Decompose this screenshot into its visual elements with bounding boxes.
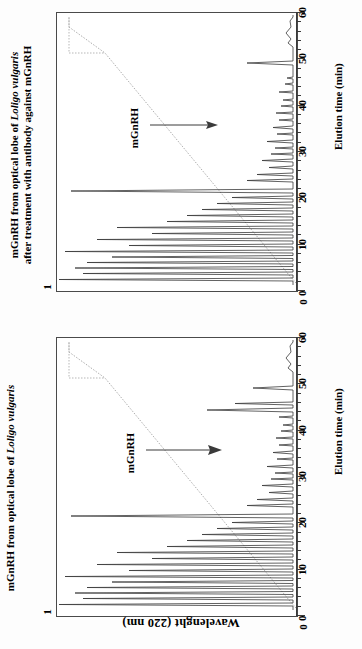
xtick-46 [296, 402, 301, 403]
panel-bottom-trace-svg [57, 338, 297, 616]
chromatogram-bottom [59, 340, 293, 610]
chromatogram-top [59, 15, 293, 285]
xtick-42 [296, 95, 301, 96]
xtick-26 [296, 495, 301, 496]
xtick-22 [296, 188, 301, 189]
xtick-42 [296, 420, 301, 421]
xtick-label-50: 50 [296, 378, 308, 389]
gradient-plateau-bottom [69, 342, 105, 378]
y-axis-label: Wavelenght (220 nm) [0, 600, 362, 630]
xtick-6 [296, 262, 301, 263]
xtick-26 [296, 170, 301, 171]
panel-top-title-line1: mGnRH from optical lobe of [8, 121, 20, 259]
xtick-56 [296, 31, 301, 32]
xtick-22 [296, 513, 301, 514]
xtick-36 [296, 123, 301, 124]
panel-bottom-title-line1: mGnRH from optical lobe of [4, 454, 16, 592]
xtick-34 [296, 457, 301, 458]
x-axis-label: Elution time (min) [332, 388, 344, 475]
xtick-label-20: 20 [296, 517, 308, 528]
xtick-46 [296, 77, 301, 78]
panel-top-ymax-label: 1 [41, 284, 53, 290]
solvent-gradient-line-bottom [69, 342, 296, 608]
xtick-58 [296, 21, 301, 22]
xtick-28 [296, 160, 301, 161]
xtick-label-60: 60 [296, 7, 308, 18]
xtick-8 [296, 578, 301, 579]
panel-bottom-title: mGnRH from optical lobe of Loligo vulgar… [4, 338, 44, 638]
xtick-14 [296, 550, 301, 551]
xtick-48 [296, 393, 301, 394]
xtick-52 [296, 374, 301, 375]
panel-top-plot-area [56, 12, 298, 292]
xtick-2 [296, 281, 301, 282]
xtick-32 [296, 142, 301, 143]
xtick-28 [296, 485, 301, 486]
x-axis-label: Elution time (min) [332, 63, 344, 150]
xtick-label-60: 60 [296, 332, 308, 343]
xtick-label-50: 50 [296, 53, 308, 64]
xtick-8 [296, 253, 301, 254]
panel-bottom-plot-area [56, 337, 298, 617]
xtick-6 [296, 587, 301, 588]
xtick-32 [296, 467, 301, 468]
panel-top: mGnRH from optical lobe of Loligo vulgar… [0, 0, 362, 324]
xtick-16 [296, 216, 301, 217]
xtick-54 [296, 40, 301, 41]
panel-top-annotation-label: mGnRH [128, 108, 140, 148]
xtick-16 [296, 541, 301, 542]
xtick-58 [296, 346, 301, 347]
xtick-18 [296, 207, 301, 208]
xtick-label-10: 10 [296, 564, 308, 575]
panel-top-title: mGnRH from optical lobe of Loligo vulgar… [8, 5, 48, 305]
xtick-24 [296, 179, 301, 180]
panel-top-trace-svg [57, 13, 297, 291]
xtick-label-20: 20 [296, 192, 308, 203]
xtick-48 [296, 68, 301, 69]
panel-bottom-annotation-arrow [146, 443, 226, 457]
xtick-label-30: 30 [296, 146, 308, 157]
xtick-52 [296, 49, 301, 50]
xtick-12 [296, 559, 301, 560]
xtick-38 [296, 114, 301, 115]
panel-bottom-species: Loligo vulgaris [4, 385, 16, 454]
panel-top-species: Loligo vulgaris [8, 52, 20, 121]
xtick-18 [296, 532, 301, 533]
xtick-36 [296, 448, 301, 449]
xtick-14 [296, 225, 301, 226]
panel-bottom-annotation-label: mGnRH [124, 433, 136, 473]
xtick-4 [296, 596, 301, 597]
xtick-label-10: 10 [296, 239, 308, 250]
xtick-56 [296, 356, 301, 357]
xtick-12 [296, 234, 301, 235]
xtick-38 [296, 439, 301, 440]
xtick-54 [296, 365, 301, 366]
xtick-label-40: 40 [296, 425, 308, 436]
xtick-34 [296, 132, 301, 133]
solvent-gradient-line [69, 17, 296, 283]
panel-top-annotation-arrow [150, 118, 220, 132]
xtick-24 [296, 504, 301, 505]
gradient-plateau [69, 17, 105, 53]
panel-top-ymin-label: 0 [297, 299, 309, 305]
xtick-44 [296, 411, 301, 412]
panel-top-title-line2: after treatment with antibody against mG… [21, 46, 33, 265]
xtick-44 [296, 86, 301, 87]
xtick-4 [296, 271, 301, 272]
xtick-label-40: 40 [296, 100, 308, 111]
hplc-figure: mGnRH from optical lobe of Loligo vulgar… [0, 0, 362, 649]
xtick-label-30: 30 [296, 471, 308, 482]
xtick-label-0: 0 [296, 291, 308, 297]
